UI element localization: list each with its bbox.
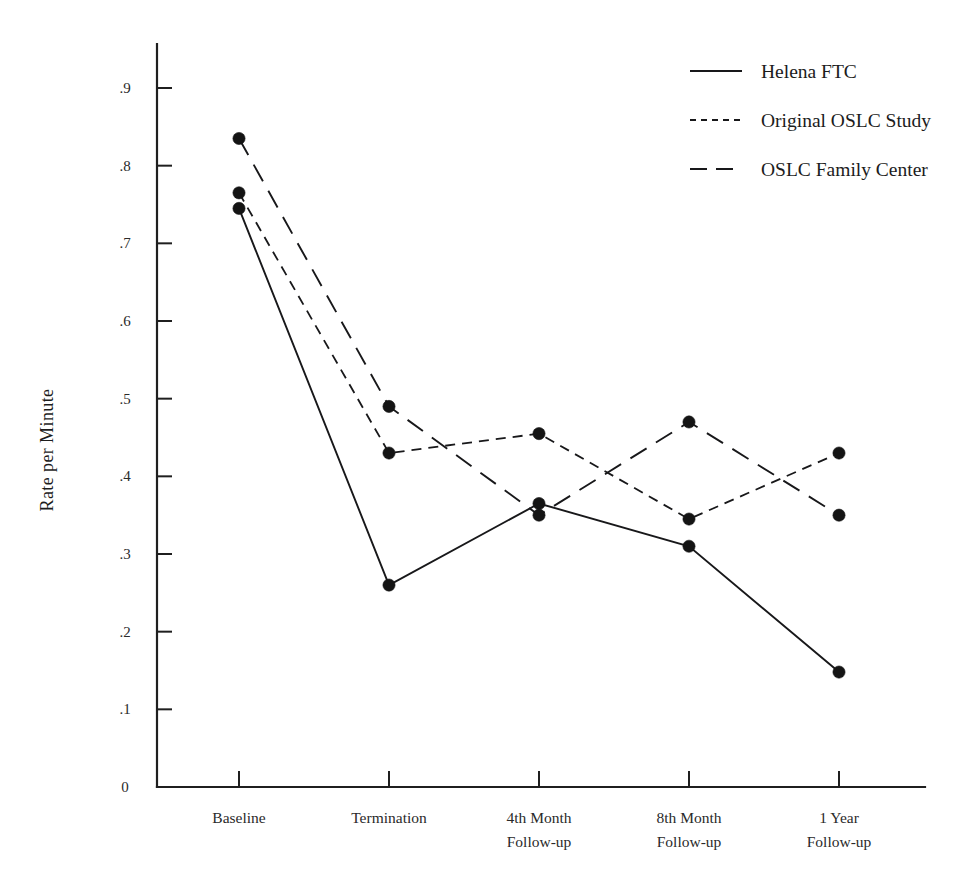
x-tick-label: 4th Month xyxy=(506,809,571,826)
data-point xyxy=(833,447,845,459)
x-tick-label: Termination xyxy=(351,809,427,826)
y-axis-tick-labels: 0.1.2.3.4.5.6.7.8.9 xyxy=(119,80,131,795)
data-point xyxy=(233,202,245,214)
x-tick-label: 8th Month xyxy=(656,809,721,826)
y-tick-label: .7 xyxy=(119,235,131,251)
y-tick-label: .3 xyxy=(119,546,130,562)
x-tick-label: Baseline xyxy=(212,809,265,826)
legend-label: OSLC Family Center xyxy=(761,159,928,180)
data-point xyxy=(533,497,545,509)
y-tick-label: .8 xyxy=(119,158,130,174)
chart-legend: Helena FTCOriginal OSLC StudyOSLC Family… xyxy=(690,61,931,180)
x-tick-label: Follow-up xyxy=(807,833,872,850)
chart-axes xyxy=(157,44,925,787)
legend-label: Helena FTC xyxy=(761,61,857,82)
data-point xyxy=(533,509,545,521)
data-point xyxy=(683,416,695,428)
series-line-original-oslc-study xyxy=(239,193,839,519)
data-point xyxy=(383,447,395,459)
data-point xyxy=(683,540,695,552)
line-chart-canvas: 0.1.2.3.4.5.6.7.8.9 BaselineTermination4… xyxy=(0,0,965,889)
data-point xyxy=(533,428,545,440)
chart-series-layer xyxy=(239,138,839,672)
data-point xyxy=(383,400,395,412)
data-point xyxy=(233,132,245,144)
data-point xyxy=(833,666,845,678)
y-tick-label: .9 xyxy=(119,80,130,96)
x-tick-label: Follow-up xyxy=(507,833,572,850)
y-axis-title: Rate per Minute xyxy=(37,389,57,512)
x-tick-label: Follow-up xyxy=(657,833,722,850)
data-point xyxy=(383,579,395,591)
x-axis-ticks xyxy=(239,771,839,787)
chart-marker-layer xyxy=(233,132,845,678)
y-tick-label: .6 xyxy=(119,313,131,329)
y-tick-label: .1 xyxy=(119,701,130,717)
y-tick-label: 0 xyxy=(121,779,129,795)
chart-figure: 0.1.2.3.4.5.6.7.8.9 BaselineTermination4… xyxy=(0,0,965,889)
legend-label: Original OSLC Study xyxy=(761,110,931,131)
data-point xyxy=(683,513,695,525)
x-axis-tick-labels: BaselineTermination4th MonthFollow-up8th… xyxy=(212,809,871,850)
x-tick-label: 1 Year xyxy=(819,809,859,826)
y-axis-ticks xyxy=(157,88,172,709)
data-point xyxy=(833,509,845,521)
y-tick-label: .5 xyxy=(119,391,130,407)
y-tick-label: .4 xyxy=(119,468,131,484)
data-point xyxy=(233,187,245,199)
series-line-oslc-family-center xyxy=(239,138,839,515)
series-line-helena-ftc xyxy=(239,208,839,672)
y-tick-label: .2 xyxy=(119,624,130,640)
